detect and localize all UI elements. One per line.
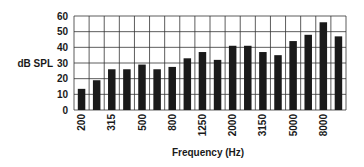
bar-200hz	[78, 89, 86, 110]
bar-630hz	[153, 69, 161, 110]
bar-8000hz	[320, 22, 328, 110]
y-tick-label: 40	[57, 42, 69, 53]
x-axis-ticks: 20031550080012502000315050008000	[76, 114, 329, 137]
x-tick-label: 315	[106, 114, 117, 131]
x-tick-label: 200	[76, 114, 87, 131]
x-tick-label: 5000	[288, 114, 299, 137]
x-axis-label: Frequency (Hz)	[172, 147, 244, 158]
y-tick-label: 30	[57, 58, 69, 69]
x-tick-label: 8000	[318, 114, 329, 137]
bar-800hz	[168, 67, 176, 110]
y-tick-label: 10	[57, 89, 69, 100]
bar-2000hz	[229, 46, 237, 110]
bar-1000hz	[184, 58, 192, 110]
bar-2500hz	[244, 46, 252, 110]
bar-1250hz	[199, 52, 207, 110]
bar-1600hz	[214, 60, 222, 110]
bar-400hz	[123, 69, 131, 110]
bar-3150hz	[259, 52, 267, 110]
y-tick-label: 0	[62, 105, 68, 116]
bar-6300hz	[304, 35, 312, 110]
y-tick-label: 20	[57, 73, 69, 84]
y-tick-label: 50	[57, 26, 69, 37]
x-tick-label: 3150	[257, 114, 268, 137]
bar-250hz	[93, 80, 101, 110]
x-tick-label: 500	[137, 114, 148, 131]
bar-4000hz	[274, 55, 282, 110]
y-axis-ticks: 0102030405060	[57, 11, 69, 116]
bar-chart: 0102030405060 20031550080012502000315050…	[0, 0, 364, 167]
y-tick-label: 60	[57, 11, 69, 22]
bar-5000hz	[289, 41, 297, 110]
bar-500hz	[138, 65, 146, 110]
x-tick-label: 1250	[197, 114, 208, 137]
bar-10000hz	[335, 36, 343, 110]
x-tick-label: 800	[167, 114, 178, 131]
y-axis-label: dB SPL	[17, 58, 53, 69]
x-tick-label: 2000	[227, 114, 238, 137]
bar-315hz	[108, 69, 116, 110]
